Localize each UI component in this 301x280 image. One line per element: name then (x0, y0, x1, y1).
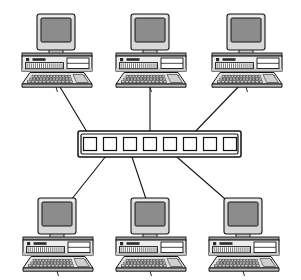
hub-port-7[interactable] (204, 138, 217, 151)
link-top-right (190, 82, 243, 137)
pc-top-middle[interactable] (116, 14, 186, 92)
network-diagram-canvas (0, 0, 301, 280)
link-top-left (57, 82, 90, 137)
hub-port-1[interactable] (84, 138, 97, 151)
network-hub[interactable] (78, 131, 241, 157)
link-bottom-left (67, 151, 110, 205)
hub-port-6[interactable] (184, 138, 197, 151)
hub-port-8[interactable] (224, 138, 237, 151)
pc-bottom-left[interactable] (23, 198, 93, 276)
pc-top-right[interactable] (212, 14, 282, 92)
pc-bottom-middle[interactable] (116, 198, 186, 276)
hub-port-5[interactable] (164, 138, 177, 151)
network-diagram-svg (0, 0, 301, 280)
hub-port-2[interactable] (104, 138, 117, 151)
hub-port-4[interactable] (144, 138, 157, 151)
hub-port-3[interactable] (124, 138, 137, 151)
pc-top-left[interactable] (22, 14, 92, 92)
link-bottom-middle (130, 151, 148, 205)
pc-bottom-right[interactable] (209, 198, 279, 276)
link-bottom-right (170, 151, 232, 205)
